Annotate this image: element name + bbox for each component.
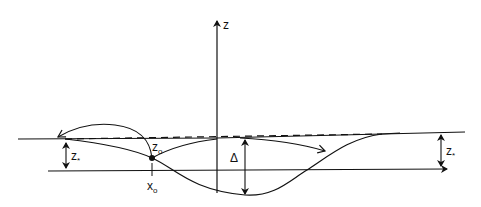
z-axis-label: z [223, 19, 229, 31]
diagram-canvas: z zo xo Δ z* z* [0, 0, 481, 207]
z0-label: zo [152, 141, 162, 156]
x0-label: xo [147, 180, 157, 195]
right-arc-arrow [240, 138, 325, 151]
zstar-right-label: z* [446, 145, 455, 160]
x-axis [48, 169, 447, 171]
diagram-lines [0, 0, 481, 207]
zstar-left-label: z* [71, 150, 80, 165]
delta-label: Δ [230, 152, 238, 164]
